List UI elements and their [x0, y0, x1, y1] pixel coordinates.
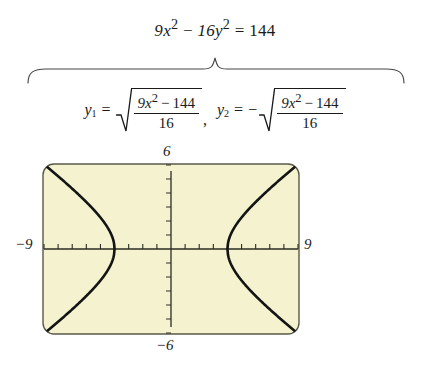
y2-radicand: 9x2−144 16: [274, 88, 345, 133]
main-equation-var-y: y: [215, 21, 223, 40]
y-axis-min-label: −6: [156, 337, 174, 354]
main-equation-exp-x: 2: [171, 16, 178, 32]
solutions-separator: ,: [203, 111, 207, 133]
y2-radical: 9x2−144 16: [259, 88, 345, 133]
y2-numerator: 9x2−144: [277, 90, 342, 114]
solutions-row: y1 = 9x2−144 16 , y2 = − 9x2−144: [0, 88, 430, 133]
y1-radical: 9x2−144 16: [116, 88, 202, 133]
y1-subscript: 1: [92, 108, 97, 119]
y1-fraction: 9x2−144 16: [134, 90, 199, 133]
x-axis-min-label: −9: [15, 236, 33, 253]
main-equation-exp-y: 2: [223, 16, 230, 32]
underbrace-icon: [0, 50, 430, 84]
y2-num-coef: 9: [281, 95, 289, 111]
main-equation-operator: −: [183, 21, 193, 40]
y2-equals: =: [234, 101, 243, 119]
y2-num-op: −: [305, 95, 313, 111]
x-axis-max-label: 9: [304, 236, 312, 253]
y2-denominator: 16: [277, 114, 342, 132]
radical-sign-icon: [259, 88, 275, 132]
y2-fraction: 9x2−144 16: [277, 90, 342, 133]
main-equation-rhs: 144: [249, 21, 275, 40]
y1-denominator: 16: [134, 114, 199, 132]
main-equation-coef-b: 16: [197, 21, 215, 40]
y2-lhs: y2: [217, 101, 229, 119]
radical-sign-icon: [116, 88, 132, 132]
main-equation-equals: =: [235, 21, 245, 40]
y1-radicand: 9x2−144 16: [131, 88, 202, 133]
y1-num-const: 144: [172, 95, 195, 111]
y1-equals: =: [102, 101, 111, 119]
y2-num-const: 144: [316, 95, 339, 111]
y2-subscript: 2: [224, 108, 229, 119]
y1-numerator: 9x2−144: [134, 90, 199, 114]
main-equation-coef-a: 9: [154, 21, 163, 40]
y1-num-op: −: [161, 95, 169, 111]
y2-num-exp: 2: [295, 91, 301, 105]
y1-lhs: y1: [84, 101, 96, 119]
y1-num-exp: 2: [152, 91, 158, 105]
y1-num-var: x: [145, 95, 152, 111]
hyperbola-graphing-figure: 9x2 − 16y2 = 144 y1 = 9x2−144 16 ,: [0, 0, 430, 374]
underbrace: [0, 50, 430, 84]
hyperbola-plot: [42, 163, 300, 335]
graphing-calculator-screen: [42, 163, 300, 335]
y-axis-max-label: 6: [163, 143, 171, 160]
y2-negative-sign: −: [248, 101, 257, 119]
y1-num-coef: 9: [138, 95, 146, 111]
main-equation-var-x: x: [163, 21, 171, 40]
y1-variable: y: [84, 101, 91, 118]
main-equation: 9x2 − 16y2 = 144: [0, 16, 430, 41]
